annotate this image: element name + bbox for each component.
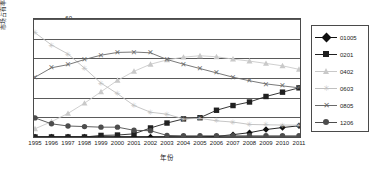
- legend-label: 0805: [340, 103, 353, 109]
- legend-label: 0402: [340, 69, 353, 75]
- chart-figure: 市场占有率/% 0102030405060 ✳✳✳✳✳✳✳✳✳✳✳✳✳✳✳✳✳✕…: [0, 0, 376, 174]
- legend-item-0603[interactable]: ✳0603: [312, 80, 368, 97]
- legend-item-01005[interactable]: 01005: [312, 29, 368, 46]
- series-0805: ✕✕✕✕✕✕✕✕✕✕✕✕✕✕✕✕✕: [34, 48, 300, 93]
- y-axis-title: 市场占有率/%: [0, 0, 7, 46]
- series-layer: ✳✳✳✳✳✳✳✳✳✳✳✳✳✳✳✳✳✕✕✕✕✕✕✕✕✕✕✕✕✕✕✕✕✕: [34, 19, 300, 137]
- chart-legend: 0100502010402✳0603✕08051206: [311, 25, 369, 132]
- legend-item-0402[interactable]: 0402: [312, 63, 368, 80]
- legend-label: 0603: [340, 86, 353, 92]
- legend-item-1206[interactable]: 1206: [312, 114, 368, 131]
- svg-text:✕: ✕: [34, 73, 38, 82]
- x-tick-label: 2011: [288, 140, 310, 147]
- legend-marker-x-icon: ✕: [315, 101, 337, 111]
- svg-text:✳: ✳: [34, 28, 38, 37]
- series-0402: [34, 53, 300, 131]
- legend-marker-star-icon: ✳: [315, 84, 337, 94]
- legend-item-0201[interactable]: 0201: [312, 46, 368, 63]
- legend-label: 01005: [340, 35, 357, 41]
- series-0603: ✳✳✳✳✳✳✳✳✳✳✳✳✳✳✳✳✳: [34, 28, 300, 129]
- legend-marker-square-icon: [315, 50, 337, 60]
- series-0201: [34, 85, 300, 137]
- series-1206: [34, 115, 300, 137]
- legend-marker-triangle-icon: [315, 67, 337, 77]
- plot-area: ✳✳✳✳✳✳✳✳✳✳✳✳✳✳✳✳✳✕✕✕✕✕✕✕✕✕✕✕✕✕✕✕✕✕: [33, 18, 301, 138]
- legend-marker-circle-icon: [315, 118, 337, 128]
- legend-label: 0201: [340, 52, 353, 58]
- x-axis-title: 年份: [33, 152, 301, 162]
- legend-label: 1206: [340, 120, 353, 126]
- legend-marker-diamond-icon: [315, 33, 337, 43]
- legend-item-0805[interactable]: ✕0805: [312, 97, 368, 114]
